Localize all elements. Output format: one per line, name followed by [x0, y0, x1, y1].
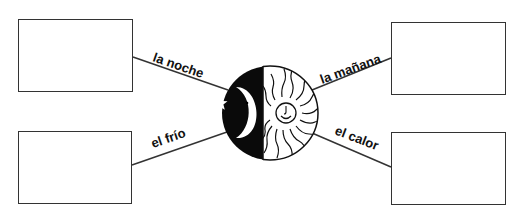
- label-el-calor: el calor: [333, 123, 381, 153]
- moon-sun-icon: [213, 66, 329, 160]
- diagram-canvas: la noche el frío la mañana el calor: [0, 0, 519, 218]
- label-la-manana: la mañana: [318, 51, 384, 87]
- label-la-noche: la noche: [151, 50, 206, 81]
